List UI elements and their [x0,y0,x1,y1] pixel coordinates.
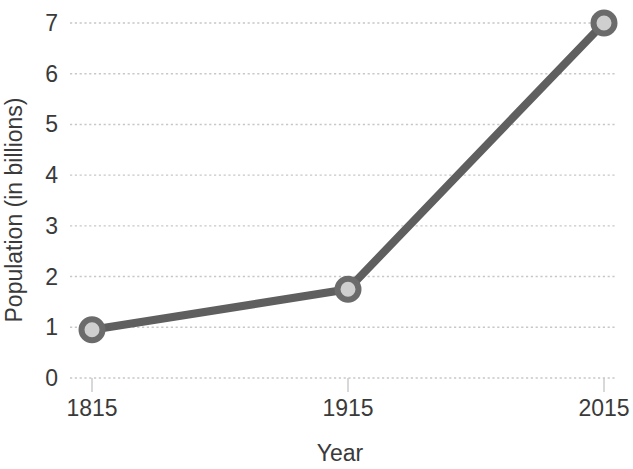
chart-canvas: 01234567 181519152015 Population (in bil… [0,0,633,469]
x-tick-label: 1815 [66,395,117,421]
y-tick-label: 1 [45,314,58,340]
data-point-marker [82,319,103,340]
data-point-marker [338,279,359,300]
x-tick-label: 1915 [322,395,373,421]
x-tick-label: 2015 [578,395,629,421]
y-axis-title: Population (in billions) [1,97,27,322]
y-tick-label: 4 [45,162,58,188]
y-tick-label: 0 [45,365,58,391]
y-tick-label: 5 [45,111,58,137]
y-tick-label: 3 [45,213,58,239]
y-tick-label: 2 [45,264,58,290]
data-point-marker [594,13,615,34]
y-tick-label: 7 [45,10,58,36]
line-chart: 01234567 181519152015 Population (in bil… [0,0,633,469]
y-tick-label: 6 [45,61,58,87]
x-axis-title: Year [317,440,364,466]
